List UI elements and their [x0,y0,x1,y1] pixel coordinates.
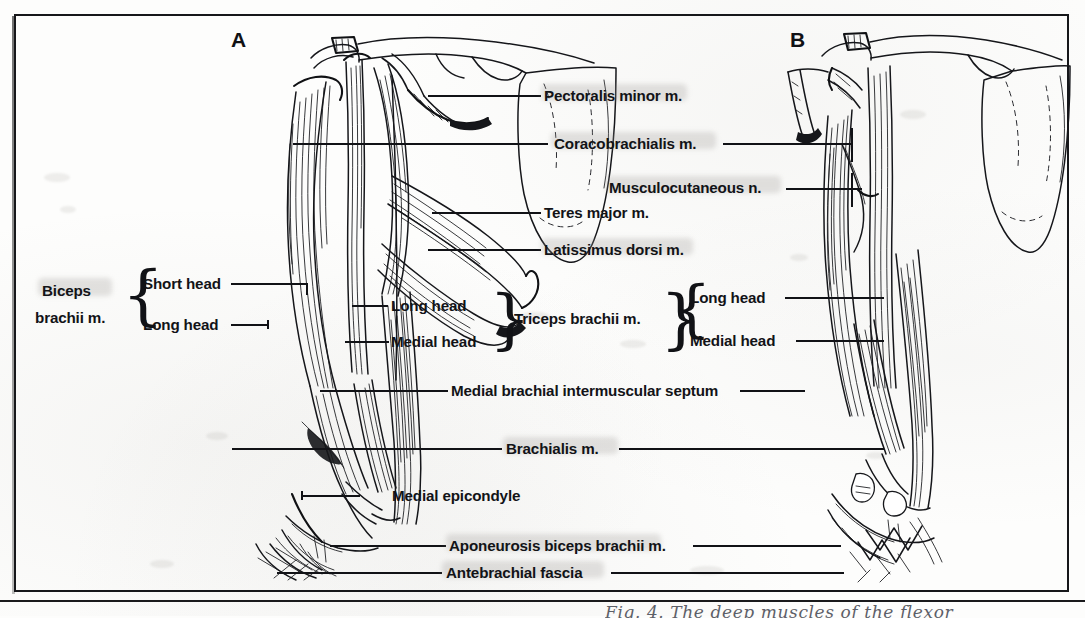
leader-short-head-tick [306,283,308,295]
illustration-panel-b [770,24,1070,584]
label-antebrachial-fascia: Antebrachial fascia [446,565,582,580]
label-long-head-panel-b: Long head [690,290,765,305]
leader-coracobrachialis-tick [851,128,853,162]
label-coracobrachialis: Coracobrachialis m. [554,136,696,151]
label-brachialis: Brachialis m. [506,441,599,456]
label-teres-major: Teres major m. [544,205,649,220]
leader-septum-left [320,390,448,392]
leader-latissimus-dorsi [428,249,541,251]
leader-coracobrachialis-right [723,143,851,145]
leader-medial-epicondyle-tick [301,491,303,500]
leader-antebrachial-right [611,572,844,574]
leader-long-head-biceps [231,324,269,326]
handwritten-caption: Fig. 4. The deep muscles of the flexor [605,602,1075,618]
label-medial-head-panel-b: Medial head [690,333,775,348]
label-pectoralis-minor: Pectoralis minor m. [544,88,682,103]
leader-septum-right [740,390,805,392]
label-medial-epicondyle: Medial epicondyle [392,488,520,503]
label-biceps-brachii-line2: brachii m. [35,310,105,325]
leader-brachialis-right [619,448,884,450]
label-medial-head-triceps: Medial head [391,334,476,349]
leader-brachialis-left [232,448,502,450]
leader-coracobrachialis-left [293,143,548,145]
label-long-head-triceps: Long head [391,298,466,313]
leader-long-head-triceps [352,305,388,307]
leader-long-head-panel-b [785,297,884,299]
leader-antebrachial-left [277,572,442,574]
leader-long-head-biceps-tick [267,320,269,329]
label-aponeurosis-biceps: Aponeurosis biceps brachii m. [449,538,666,553]
left-curly-brace-panel-b: { [672,278,711,340]
label-biceps-brachii-line1: Biceps [42,283,91,298]
label-triceps-brachii: Triceps brachii m. [514,311,640,326]
label-short-head: Short head [143,276,221,291]
leader-pectoralis-minor [428,95,541,97]
label-medial-brachial-septum: Medial brachial intermuscular septum [451,383,718,398]
leader-aponeurosis-left [330,545,446,547]
leader-medial-head-panel-b [796,340,884,342]
leader-teres-major [432,212,541,214]
label-latissimus-dorsi: Latissimus dorsi m. [544,242,684,257]
leader-musculocutaneous-tick [851,173,853,207]
label-musculocutaneous-nerve: Musculocutaneous n. [609,180,761,195]
label-long-head-biceps: Long head [143,317,218,332]
leader-aponeurosis-right [693,545,841,547]
leader-short-head [231,283,308,285]
leader-medial-head-triceps [345,341,389,343]
leader-medial-epicondyle [303,495,360,497]
